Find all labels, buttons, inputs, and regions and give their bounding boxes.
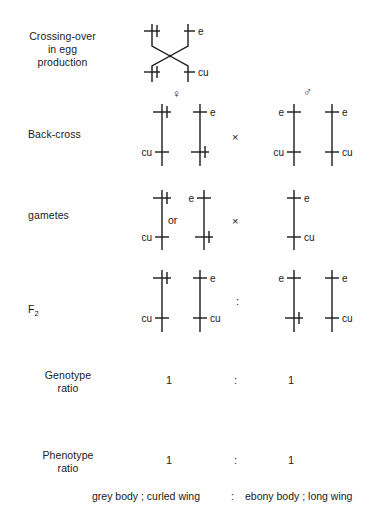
allele-label-e-crossover-top: e [198,27,204,37]
allele-label-cu-male-right-bottom: cu [342,148,353,158]
row-label-phenotype-ratio: Phenotype ratio [18,449,118,475]
backcross-female-chromosome-pair: cu e [140,104,226,168]
phenotype-caption-right: ebony body ; long wing [245,490,352,503]
allele-label-cu-f2-left-2-bottom: cu [210,314,221,324]
genetics-cross-diagram: Crossing-over in egg production e cu Bac… [0,0,374,510]
allele-label-cu-f2-right-2-bottom: cu [342,314,353,324]
crossing-over-chromosome-group: e cu [140,22,220,84]
f2-right-chromosome-pair: e e cu [272,270,358,334]
allele-label-cu-gamete-male-bottom: cu [304,233,315,243]
allele-label-e-male-right-top: e [342,108,348,118]
row-label-gametes: gametes [28,209,138,222]
phenotype-ratio-right: 1 [288,455,294,466]
backcross-operator: × [232,132,238,143]
allele-label-e-gamete-2: e [172,194,194,204]
allele-label-cu-crossover-bottom: cu [198,68,209,78]
allele-label-cu-f2-left-1: cu [126,314,152,324]
genotype-ratio-operator: : [234,375,237,386]
phenotype-caption-left: grey body ; curled wing [92,490,200,503]
allele-label-e-f2-right-2-top: e [342,274,348,284]
allele-label-cu-male-left-bottom: cu [256,148,284,158]
phenotype-ratio-left: 1 [166,455,172,466]
row-label-f2: F2 [28,290,88,320]
row-label-back-cross: Back-cross [28,128,138,141]
genotype-ratio-left: 1 [166,375,172,386]
female-symbol-backcross: ♀ [172,88,181,100]
allele-label-e-gamete-male-top: e [304,194,310,204]
genotype-ratio-right: 1 [288,375,294,386]
f2-operator: : [236,296,239,307]
gamete-male-chromosome: e cu [272,190,318,252]
allele-label-e-f2-left-2-top: e [210,274,216,284]
allele-label-cu-female-left: cu [126,148,152,158]
f2-label-subscript: 2 [35,309,39,318]
gametes-or-label: or [168,214,177,226]
male-symbol-backcross: ♂ [303,86,312,98]
allele-label-e-f2-right-1-top: e [262,274,284,284]
phenotype-ratio-operator: : [234,455,237,466]
phenotype-caption-operator: : [231,490,234,503]
allele-label-e-male-left-top: e [262,108,284,118]
gametes-operator: × [232,216,238,227]
allele-label-e-female-right: e [210,108,216,118]
allele-label-cu-gamete-1: cu [126,233,152,243]
backcross-male-chromosome-pair: e cu e cu [272,104,358,168]
f2-left-chromosome-pair: cu e cu [140,270,226,334]
row-label-crossing-over: Crossing-over in egg production [10,30,115,69]
row-label-genotype-ratio: Genotype ratio [18,369,118,395]
gamete-female-chromosome-2: e [182,190,228,252]
